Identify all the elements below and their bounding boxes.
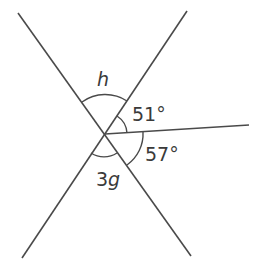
- arc-51: [117, 116, 127, 133]
- label-3g-var: g: [108, 168, 120, 190]
- label-3g: 3g: [96, 168, 120, 190]
- label-51: 51°: [132, 103, 166, 125]
- label-57: 57°: [145, 143, 179, 165]
- arc-h: [82, 95, 127, 102]
- arc-57: [127, 132, 143, 165]
- line-upper-right-to-lower-left: [22, 11, 187, 258]
- label-3g-coef: 3: [96, 168, 108, 190]
- label-h: h: [97, 68, 109, 90]
- angle-diagram: h 51° 57° 3g: [0, 0, 254, 266]
- arc-3g: [91, 153, 117, 157]
